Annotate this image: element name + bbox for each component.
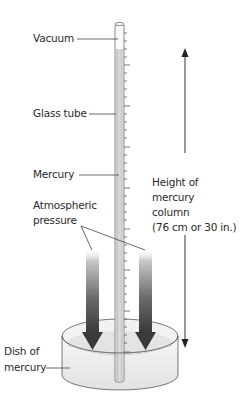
atmospheric-pressure-arrow-left [82, 248, 103, 350]
mercury-column [116, 49, 123, 381]
label-dish-2: mercury [4, 360, 46, 375]
label-height-2: mercury [152, 190, 194, 205]
glass-tube [115, 22, 124, 382]
label-height-3: column [152, 205, 189, 220]
label-atmospheric-pressure-1: Atmospheric [33, 198, 97, 213]
label-vacuum: Vacuum [33, 31, 74, 46]
scale-ticks [124, 33, 130, 352]
label-glass-tube: Glass tube [33, 106, 87, 121]
atmospheric-pressure-arrow-right [135, 248, 156, 350]
label-height-4: (76 cm or 30 in.) [152, 220, 237, 235]
label-dish-1: Dish of [4, 344, 39, 359]
label-mercury: Mercury [33, 167, 74, 182]
label-atmospheric-pressure-2: pressure [33, 213, 77, 228]
label-height-1: Height of [152, 175, 198, 190]
